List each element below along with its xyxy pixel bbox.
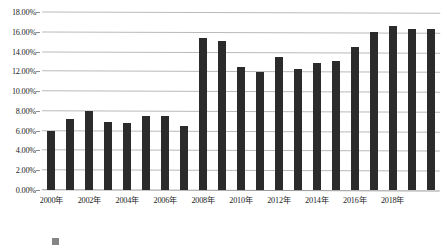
bar-2010年[interactable]: [237, 67, 245, 190]
x-tick-label: 2006年: [153, 193, 176, 205]
y-tick-mark: [36, 111, 40, 112]
y-tick-label: 0.00%: [16, 186, 36, 195]
bar-chart-figure: 0.00%2.00%4.00%6.00%8.00%10.00%12.00%14.…: [0, 0, 447, 248]
bar-slot: [421, 12, 440, 190]
x-axis: 2000年2002年2004年2006年2008年2010年2012年2014年…: [42, 193, 440, 211]
y-tick-mark: [36, 32, 40, 33]
y-tick-mark: [36, 91, 40, 92]
bar-2007年[interactable]: [180, 126, 188, 190]
plot-area: [42, 12, 440, 190]
bar-2017年[interactable]: [370, 32, 378, 190]
bar-slot: [175, 12, 194, 190]
x-tick-label: 2010年: [229, 193, 252, 205]
x-tick-label: 2012年: [267, 193, 290, 205]
bar-slot: [137, 12, 156, 190]
y-tick-mark: [36, 52, 40, 53]
y-tick-mark: [36, 12, 40, 13]
y-tick-label: 14.00%: [12, 47, 36, 56]
bar-slot: [156, 12, 175, 190]
y-tick-label: 6.00%: [16, 126, 36, 135]
x-tick-label: 2004年: [116, 193, 139, 205]
x-tick-label: 2008年: [191, 193, 214, 205]
y-tick-mark: [36, 71, 40, 72]
bars-layer: [42, 12, 440, 190]
bar-2015年[interactable]: [332, 61, 340, 190]
y-tick-label: 18.00%: [12, 8, 36, 17]
y-tick-mark: [36, 150, 40, 151]
bar-2018年[interactable]: [389, 26, 397, 190]
y-tick-label: 10.00%: [12, 87, 36, 96]
bar-slot: [213, 12, 232, 190]
bar-2012年[interactable]: [275, 57, 283, 191]
bar-slot: [250, 12, 269, 190]
bar-slot: [307, 12, 326, 190]
figure-caption: [52, 236, 392, 246]
y-tick-label: 16.00%: [12, 27, 36, 36]
y-tick-mark: [36, 190, 40, 191]
y-tick-mark: [36, 170, 40, 171]
bar-slot: [402, 12, 421, 190]
bar-2004年[interactable]: [123, 123, 131, 190]
bar-2013年[interactable]: [294, 69, 302, 190]
y-tick-label: 8.00%: [16, 106, 36, 115]
bar-2001年[interactable]: [66, 119, 74, 190]
bar-2011年[interactable]: [256, 72, 264, 190]
bar-slot: [80, 12, 99, 190]
bar-2009年[interactable]: [218, 41, 226, 190]
bar-slot: [269, 12, 288, 190]
x-tick-label: 2016年: [343, 193, 366, 205]
bar-slot: [61, 12, 80, 190]
caption-marker-icon: [52, 238, 59, 245]
bar-2000年[interactable]: [47, 131, 55, 190]
x-tick-label: 2000年: [40, 193, 63, 205]
bar-slot: [194, 12, 213, 190]
y-tick-label: 12.00%: [12, 67, 36, 76]
bar-slot: [364, 12, 383, 190]
bar-2008年[interactable]: [199, 38, 207, 190]
bar-2002年[interactable]: [85, 111, 93, 190]
bar-2019年[interactable]: [408, 29, 416, 190]
x-tick-label: 2014年: [305, 193, 328, 205]
bar-2003年[interactable]: [104, 122, 112, 190]
bar-slot: [345, 12, 364, 190]
bar-2005年[interactable]: [142, 116, 150, 190]
bar-2016年[interactable]: [351, 47, 359, 190]
x-tick-label: 2018年: [381, 193, 404, 205]
bar-slot: [383, 12, 402, 190]
bar-slot: [99, 12, 118, 190]
bar-slot: [42, 12, 61, 190]
bar-slot: [232, 12, 251, 190]
bar-slot: [118, 12, 137, 190]
bar-slot: [326, 12, 345, 190]
bar-2006年[interactable]: [161, 116, 169, 190]
y-axis: 0.00%2.00%4.00%6.00%8.00%10.00%12.00%14.…: [0, 0, 40, 200]
y-tick-label: 2.00%: [16, 166, 36, 175]
y-tick-mark: [36, 131, 40, 132]
bar-2014年[interactable]: [313, 63, 321, 190]
y-tick-label: 4.00%: [16, 146, 36, 155]
bar-slot: [288, 12, 307, 190]
bar-2020年[interactable]: [427, 29, 435, 190]
x-tick-label: 2002年: [78, 193, 101, 205]
